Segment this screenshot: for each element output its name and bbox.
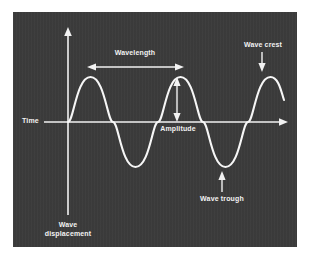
wave-crest-label: Wave crest xyxy=(244,41,282,50)
amplitude-arrowhead-bottom-icon xyxy=(173,113,180,122)
wavelength-label: Wavelength xyxy=(115,49,156,58)
wave-trough-label: Wave trough xyxy=(200,195,244,204)
x-axis-arrowhead-icon xyxy=(279,118,288,126)
y-axis-label: Wave displacement xyxy=(34,221,102,238)
y-axis-label-line1: Wave xyxy=(59,221,78,228)
wave-trough-marker xyxy=(218,171,225,192)
y-axis-label-line2: displacement xyxy=(45,230,92,237)
wavelength-marker xyxy=(87,63,184,70)
amplitude-marker xyxy=(173,77,180,122)
wave-diagram-figure: Time Wave displacement Wavelength Amplit… xyxy=(0,0,311,259)
wave-trough-arrowhead-icon xyxy=(218,171,225,180)
wavelength-arrowhead-right-icon xyxy=(175,63,184,70)
wavelength-arrowhead-left-icon xyxy=(87,63,96,70)
wave-crest-arrowhead-icon xyxy=(258,63,265,72)
y-axis-arrowhead-icon xyxy=(64,27,72,36)
x-axis-label: Time xyxy=(22,117,39,126)
diagram-panel: Time Wave displacement Wavelength Amplit… xyxy=(13,12,297,247)
wave-crest-marker xyxy=(258,52,265,72)
amplitude-label: Amplitude xyxy=(160,125,196,134)
